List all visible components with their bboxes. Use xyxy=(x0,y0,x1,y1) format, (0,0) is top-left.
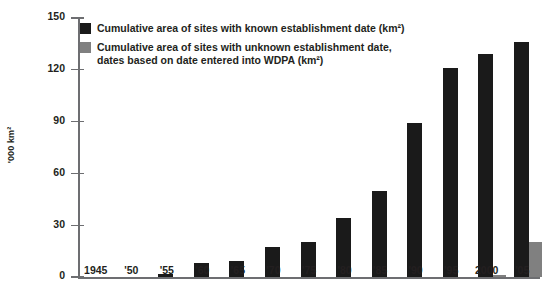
chart-legend: Cumulative area of sites with known esta… xyxy=(80,22,410,73)
legend-label-known: Cumulative area of sites with known esta… xyxy=(97,22,404,36)
y-axis-tick-label: 90 xyxy=(53,114,65,126)
x-axis-tick-label: '90 xyxy=(409,264,423,276)
x-axis-tick-label: '65 xyxy=(231,264,245,276)
bar-known-2000 xyxy=(478,54,493,277)
y-axis-tick-label: 0 xyxy=(59,269,65,281)
legend-label-unknown: Cumulative area of sites with unknown es… xyxy=(97,41,392,68)
legend-label-unknown-line1: Cumulative area of sites with unknown es… xyxy=(97,41,392,53)
bar-known-05 xyxy=(514,42,529,277)
bar-unknown-05 xyxy=(529,242,542,277)
y-axis-title: '000 km² xyxy=(6,115,16,175)
x-axis-tick-label: '50 xyxy=(124,264,138,276)
y-axis-tick: 0 xyxy=(71,276,84,277)
x-axis-line xyxy=(78,277,540,279)
legend-item-unknown: Cumulative area of sites with unknown es… xyxy=(80,41,410,68)
bar-known-90 xyxy=(407,123,422,277)
y-axis-tick: 30 xyxy=(71,225,84,226)
x-axis-tick-label: '95 xyxy=(444,264,458,276)
bar-known-95 xyxy=(443,68,458,277)
x-axis-tick-label: '85 xyxy=(373,264,387,276)
x-axis-tick-label: '05 xyxy=(515,264,529,276)
legend-swatch-unknown-icon xyxy=(80,42,91,53)
x-axis-tick-label: '70 xyxy=(266,264,280,276)
y-axis-tick: 150 xyxy=(71,17,84,18)
y-axis-tick-label: 30 xyxy=(53,218,65,230)
y-axis-tick: 90 xyxy=(71,121,84,122)
legend-label-known-line1: Cumulative area of sites with known esta… xyxy=(97,22,404,34)
cumulative-protected-area-bar-chart: '000 km² 0306090120150 Cumulative area o… xyxy=(0,0,557,308)
x-axis-tick-label: '55 xyxy=(160,264,174,276)
x-axis-tick-label: 2000 xyxy=(475,264,498,276)
x-axis-tick-label: '75 xyxy=(302,264,316,276)
y-axis-tick-label: 60 xyxy=(53,166,65,178)
x-axis-tick-label: 1945 xyxy=(84,264,107,276)
legend-item-known: Cumulative area of sites with known esta… xyxy=(80,22,410,36)
y-axis-tick: 60 xyxy=(71,173,84,174)
y-axis-tick-label: 150 xyxy=(47,10,65,22)
x-axis-tick-label: '60 xyxy=(195,264,209,276)
legend-label-unknown-line2: dates based on date entered into WDPA (k… xyxy=(97,54,392,68)
y-axis-tick-label: 120 xyxy=(47,62,65,74)
x-axis-tick-label: '80 xyxy=(337,264,351,276)
legend-swatch-known-icon xyxy=(80,23,91,34)
